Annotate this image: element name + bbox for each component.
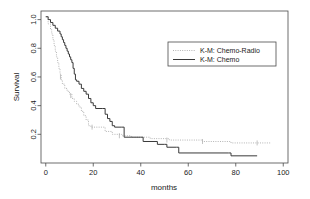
- x-tick-label: 0: [44, 168, 48, 177]
- x-tick-label: 40: [137, 168, 145, 177]
- x-tick-label: 100: [277, 168, 290, 177]
- legend-label-chemo-radio: K-M: Chemo-Radio: [200, 47, 260, 54]
- y-tick-label: 0.4: [30, 100, 39, 110]
- y-tick-label: 0.8: [30, 43, 39, 53]
- series-line-dotted: [46, 17, 272, 143]
- x-axis-title: months: [151, 183, 177, 192]
- y-tick-label: 0.6: [30, 72, 39, 82]
- y-tick-label: 0.2: [30, 129, 39, 139]
- legend-label-chemo: K-M: Chemo: [200, 56, 239, 63]
- plot-canvas: 020406080100 0.20.40.60.81.0 months Surv…: [0, 0, 310, 199]
- series-line-solid: [46, 17, 257, 156]
- x-axis-ticks: 020406080100: [44, 163, 290, 177]
- plot-panel-border: [41, 11, 288, 163]
- series-group: [46, 17, 272, 156]
- y-axis-ticks: 0.20.40.60.81.0: [30, 14, 42, 139]
- x-tick-label: 80: [232, 168, 240, 177]
- x-tick-label: 20: [89, 168, 97, 177]
- y-tick-label: 1.0: [30, 14, 39, 24]
- kaplan-meier-survival-figure: 020406080100 0.20.40.60.81.0 months Surv…: [0, 0, 310, 199]
- y-axis-title: Survival: [12, 73, 21, 102]
- chart-legend[interactable]: K-M: Chemo-Radio K-M: Chemo: [168, 42, 276, 66]
- x-tick-label: 60: [184, 168, 192, 177]
